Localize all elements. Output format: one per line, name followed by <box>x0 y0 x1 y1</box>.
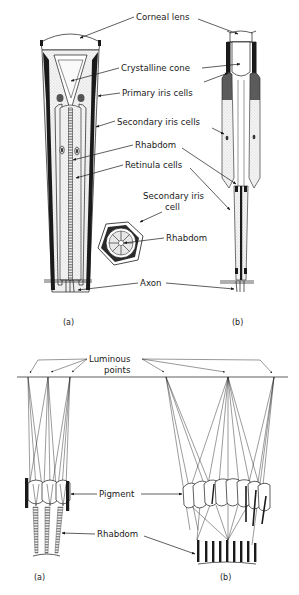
ommatidium-b <box>220 31 260 292</box>
pigment-a-right <box>66 481 69 511</box>
superposition-rays <box>166 377 274 545</box>
compound-eye-figure: Corneal lens Crystalline cone Primary ir… <box>0 0 299 595</box>
superposition-rhabdoms <box>197 540 256 564</box>
ommatidium-a <box>40 34 101 292</box>
crystalline-cone-b <box>232 42 250 76</box>
corneal-lens-b <box>230 31 252 42</box>
caption-top-b: (b) <box>232 318 243 327</box>
label-rhabdom-cross: Rhabdom <box>166 233 207 243</box>
label-retinula-cells: Retinula cells <box>125 160 183 170</box>
caption-bottom-b: (b) <box>220 573 231 582</box>
corneal-lens-a <box>41 34 100 50</box>
caption-top-a: (a) <box>63 318 74 327</box>
label-secondary-iris-cell-2: cell <box>165 202 180 212</box>
label-secondary-iris-cells: Secondary iris cells <box>117 117 201 127</box>
label-primary-iris-cells: Primary iris cells <box>122 88 193 98</box>
apposition-lenses <box>25 478 70 556</box>
label-pigment: Pigment <box>99 489 135 499</box>
rhabdom-a <box>69 108 73 280</box>
cross-section <box>98 222 143 265</box>
label-luminous-2: points <box>104 365 131 375</box>
label-axon: Axon <box>140 278 161 288</box>
rhabdom-cross-section <box>118 240 123 245</box>
rhabdom-b <box>240 186 242 280</box>
superposition-lenses <box>183 479 270 526</box>
label-rhabdom-bottom: Rhabdom <box>97 529 138 539</box>
pigment-a-left <box>25 478 28 508</box>
label-corneal-lens: Corneal lens <box>136 12 190 22</box>
label-luminous-1: Luminous <box>89 354 131 364</box>
label-secondary-iris-cell-1: Secondary iris <box>143 191 205 201</box>
label-crystalline-cone: Crystalline cone <box>121 63 190 73</box>
apposition-rays <box>28 377 70 487</box>
label-rhabdom: Rhabdom <box>135 140 176 150</box>
optics-diagram: Luminous points Pigment Rhabdom (a) (b) <box>17 354 288 582</box>
caption-bottom-a: (a) <box>34 573 45 582</box>
